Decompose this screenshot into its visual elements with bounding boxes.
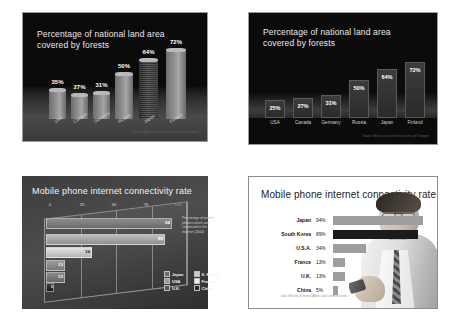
bar: 27% Canada (293, 98, 313, 118)
bar-value-label: 72% (170, 39, 182, 45)
legend-item: USA (164, 278, 191, 284)
bar-value-label: 25% (266, 105, 284, 111)
source-note: Data: Ministry of Internal Affairs and C… (281, 295, 347, 298)
bar: 34 (46, 247, 92, 258)
bar: 5 (46, 283, 54, 292)
bar-track (333, 272, 429, 281)
bar-value-label: 34% (316, 246, 333, 251)
bar-cap (71, 93, 88, 97)
bar-face (115, 74, 133, 119)
bar-value-label: 72% (406, 67, 424, 73)
bar-category-label: Finland (400, 120, 430, 125)
bar-cap (49, 88, 66, 92)
bar-fill (333, 216, 423, 225)
bar-value-label: 64% (378, 74, 396, 80)
legend-label: Japan (172, 272, 184, 277)
bar-row: South Korea 89% (257, 227, 429, 241)
bar-face (139, 60, 158, 119)
source-note: Source: Ministry of Land Infrastructure … (363, 135, 429, 138)
bar-category-label: U.S.A. (257, 245, 316, 251)
legend-label: USA (172, 279, 180, 284)
bar-value-label: 5% (316, 288, 333, 293)
plot-area: 35% USA 27% Canada 31% Germany 50% Russi… (23, 13, 207, 141)
bar-fill (333, 244, 366, 253)
bar-value-label: 27% (73, 84, 85, 90)
bar-cap (166, 48, 186, 52)
bar: 13 (46, 272, 65, 283)
bar-category-label: Canada (288, 120, 318, 125)
bar-category-label: Russia (344, 120, 374, 125)
bar: 89 (46, 234, 165, 245)
bar-category-label: China (257, 287, 316, 293)
bar-value-label: 94 (165, 220, 170, 225)
panel-forests-flat: Percentage of national land area covered… (248, 12, 438, 145)
title-line-1: Percentage of national land area (263, 27, 428, 38)
bar-column: 27% Canada (71, 96, 88, 119)
bar-value-label: 31% (322, 100, 340, 106)
legend-item: China (194, 285, 221, 291)
bar-face (46, 218, 172, 229)
plot-area: 25% USA 27% Canada 31% Germany 50% Russi… (263, 44, 427, 118)
bar-value-label: 5 (51, 285, 53, 289)
source-note: Source: Ministry of Land Infrastructure … (133, 131, 199, 134)
bar-value-label: 13 (58, 274, 63, 279)
bar-category-label: South Korea (257, 231, 316, 237)
legend-item: France (194, 278, 221, 284)
bar-category-label: Japan (257, 217, 316, 223)
legend-swatch (194, 271, 200, 277)
bar-value-label: 27% (294, 103, 312, 109)
legend-label: France (202, 279, 215, 284)
bar-cap (139, 58, 158, 62)
bar: 13 (46, 260, 65, 271)
bar-column: 31% Germany (93, 94, 110, 119)
bar-value-label: 13% (316, 260, 333, 265)
bar-track (333, 216, 429, 225)
bar-value-label: 50% (118, 63, 130, 69)
legend-label: China (202, 286, 213, 291)
bar-track (333, 258, 429, 267)
bar-category-label: Germany (316, 120, 346, 125)
slide-comparison-sheet: Percentage of national land area covered… (0, 0, 458, 325)
legend-item: Japan (164, 271, 191, 277)
bar-category-label: France (257, 259, 316, 265)
bar-fill (333, 258, 345, 267)
bar-row: Japan 94% (257, 213, 429, 227)
bar-row: U.K. 13% (257, 269, 429, 283)
bar-track (333, 230, 429, 239)
bar-category-label: USA (260, 120, 290, 125)
bar-fill (333, 230, 418, 239)
bar-value-label: 89% (316, 232, 333, 237)
bars-group: Japan 94% South Korea 89% U.S.A. 34% (257, 213, 429, 297)
bar-face (49, 90, 66, 119)
bar-column: 35% USA (49, 91, 66, 119)
bar: 64% Japan (377, 69, 397, 118)
axis-tick: 0 (49, 202, 51, 207)
bar-category-label: Japan (372, 120, 402, 125)
legend-swatch (164, 285, 170, 291)
bar-value-label: 64% (142, 49, 154, 55)
bar-cap (93, 91, 110, 95)
axis-tick: 50 (112, 202, 117, 207)
panel-forests-3d: Percentage of national land area covered… (22, 12, 208, 142)
bar-value-label: 94% (316, 218, 333, 223)
legend-item: S. Korea (194, 271, 221, 277)
bar-value-label: 34 (85, 249, 90, 254)
legend: Japan S. Korea USA France U.K. China (164, 271, 220, 291)
bar-track (333, 286, 429, 295)
bars-group: 94 89 34 13 13 5 (46, 212, 182, 292)
bar: 31% Germany (321, 95, 341, 118)
bar-value-label: 35% (51, 79, 63, 85)
bar-face (166, 50, 186, 119)
bar-face (46, 234, 165, 245)
panel-mobile-clean: Mobile phone internet connectivity rate … (248, 176, 438, 309)
legend-item: U.K. (164, 285, 191, 291)
legend-swatch (194, 278, 200, 284)
bar-fill (333, 272, 345, 281)
axis-tick: 25 (80, 202, 85, 207)
legend-swatch (164, 278, 170, 284)
bar-value-label: 13 (58, 262, 63, 267)
bar-track (333, 244, 429, 253)
annotation-text: Percentage of mobile phones which are co… (182, 216, 216, 234)
bar-row: U.S.A. 34% (257, 241, 429, 255)
bar: 72% Finland (405, 62, 425, 118)
